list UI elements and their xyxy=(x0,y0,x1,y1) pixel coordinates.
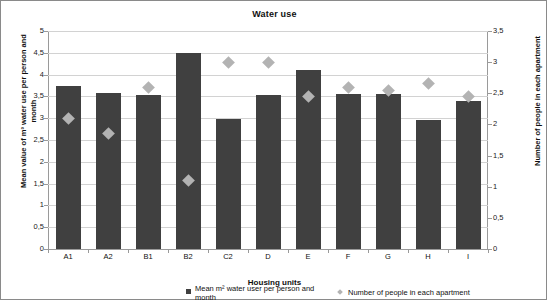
y-axis-tickmark-right xyxy=(488,62,492,63)
marker-D xyxy=(262,56,275,69)
y-axis-tick-right: 2,5 xyxy=(493,89,519,97)
y-axis-tick-left: 4 xyxy=(18,71,44,79)
x-axis-separator xyxy=(368,249,369,253)
x-axis-separator xyxy=(288,249,289,253)
bar-A2 xyxy=(96,93,121,249)
gridline xyxy=(48,75,488,76)
bar-H xyxy=(416,120,441,249)
bar-B1 xyxy=(136,95,161,249)
x-axis-tick-A1: A1 xyxy=(48,252,88,261)
legend-label-bar-series: Mean m² water user per person and month xyxy=(195,285,315,301)
x-axis-separator xyxy=(408,249,409,253)
x-axis-tick-H: H xyxy=(408,252,448,261)
plot-area xyxy=(48,31,488,249)
y-axis-tick-right: 0,5 xyxy=(493,214,519,222)
y-axis-tick-left: 5 xyxy=(18,27,44,35)
y-axis-tickmark-left xyxy=(44,140,48,141)
y-axis-tickmark-right xyxy=(488,31,492,32)
x-axis-separator xyxy=(448,249,449,253)
y-axis-tickmark-left xyxy=(44,31,48,32)
y-axis-tickmark-left xyxy=(44,162,48,163)
bar-D xyxy=(256,95,281,249)
y-axis-tickmark-right xyxy=(488,218,492,219)
y-axis-tick-left: 0,5 xyxy=(18,223,44,231)
marker-C2 xyxy=(222,56,235,69)
y-axis-tick-left: 1 xyxy=(18,201,44,209)
x-axis-separator xyxy=(208,249,209,253)
x-axis-tick-C2: C2 xyxy=(208,252,248,261)
x-axis-tick-I: I xyxy=(448,252,488,261)
legend-marker-bar-series xyxy=(186,289,191,294)
marker-F xyxy=(342,81,355,94)
y-axis-tickmark-left xyxy=(44,96,48,97)
x-axis-separator xyxy=(328,249,329,253)
bar-A1 xyxy=(56,86,81,250)
gridline xyxy=(48,31,488,32)
bar-B2 xyxy=(176,53,201,249)
x-axis-separator xyxy=(48,249,49,253)
x-axis-separator xyxy=(128,249,129,253)
legend-label-scatter-series: Number of people in each apartment xyxy=(348,289,528,298)
legend-marker-scatter-series xyxy=(337,289,343,295)
y-axis-tick-right: 1,5 xyxy=(493,152,519,160)
y-axis-tickmark-left xyxy=(44,53,48,54)
gridline xyxy=(48,249,488,250)
y-axis-tick-right: 1 xyxy=(493,183,519,191)
chart-title: Water use xyxy=(1,9,548,19)
x-axis-separator xyxy=(88,249,89,253)
bar-I xyxy=(456,101,481,249)
x-axis-tick-B2: B2 xyxy=(168,252,208,261)
x-axis-tick-E: E xyxy=(288,252,328,261)
x-axis-tick-B1: B1 xyxy=(128,252,168,261)
gridline xyxy=(48,53,488,54)
chart-legend: Mean m² water user per person and month … xyxy=(1,284,548,301)
y-axis-tick-right: 3 xyxy=(493,58,519,66)
y-axis-tickmark-left xyxy=(44,184,48,185)
y-axis-tick-right: 2 xyxy=(493,120,519,128)
y-axis-tick-left: 2 xyxy=(18,158,44,166)
y-axis-label-right: Number of people in each apartment xyxy=(533,11,543,191)
y-axis-tick-left: 1,5 xyxy=(18,180,44,188)
marker-H xyxy=(422,78,435,91)
y-axis-tick-left: 3,5 xyxy=(18,92,44,100)
y-axis-tickmark-left xyxy=(44,227,48,228)
y-axis-tickmark-left xyxy=(44,75,48,76)
bar-F xyxy=(336,94,361,249)
y-axis-tickmark-left xyxy=(44,118,48,119)
y-axis-tickmark-right xyxy=(488,124,492,125)
y-axis-tick-right: 3,5 xyxy=(493,27,519,35)
x-axis-tick-A2: A2 xyxy=(88,252,128,261)
y-axis-tick-right: 0 xyxy=(493,245,519,253)
x-axis-separator xyxy=(488,249,489,253)
x-axis-tick-F: F xyxy=(328,252,368,261)
x-axis-separator xyxy=(248,249,249,253)
bar-G xyxy=(376,94,401,249)
marker-B1 xyxy=(142,81,155,94)
x-axis-tick-D: D xyxy=(248,252,288,261)
x-axis-separator xyxy=(168,249,169,253)
y-axis-tickmark-right xyxy=(488,156,492,157)
y-axis-tickmark-right xyxy=(488,187,492,188)
chart-container: Water use Mean value of m³ water use per… xyxy=(0,0,547,300)
y-axis-tick-left: 2,5 xyxy=(18,136,44,144)
x-axis-tick-G: G xyxy=(368,252,408,261)
y-axis-tick-left: 4,5 xyxy=(18,49,44,57)
y-axis-tickmark-right xyxy=(488,93,492,94)
bar-C2 xyxy=(216,119,241,249)
y-axis-tick-left: 0 xyxy=(18,245,44,253)
y-axis-tick-left: 3 xyxy=(18,114,44,122)
y-axis-tickmark-left xyxy=(44,205,48,206)
